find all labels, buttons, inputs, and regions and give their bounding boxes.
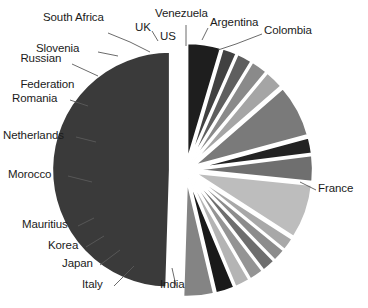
slice-label-argentina: Argentina xyxy=(210,16,258,29)
slice-label-korea: Korea xyxy=(48,239,78,252)
slice-label-slovenia: Slovenia xyxy=(36,42,79,55)
leader-line-south-africa xyxy=(108,33,150,52)
pie-chart-figure: South Africa UK US Venezuela Argentina C… xyxy=(0,0,368,308)
slice-label-japan: Japan xyxy=(62,257,93,270)
slice-label-venezuela: Venezuela xyxy=(155,7,208,20)
slice-label-colombia: Colombia xyxy=(264,24,312,37)
leader-line-argentina xyxy=(202,28,208,40)
leader-line-uk xyxy=(152,31,158,41)
slice-label-us: US xyxy=(160,30,176,43)
slice-label-mauritius: Mauritius xyxy=(22,218,68,231)
leader-line-slovenia xyxy=(98,52,118,56)
russian-federation-line-2: Federation xyxy=(20,78,74,90)
slice-label-romania: Romania xyxy=(12,92,57,105)
slice-label-france: France xyxy=(318,182,353,195)
slice-label-netherlands: Netherlands xyxy=(3,129,64,142)
slice-label-italy: Italy xyxy=(82,278,103,291)
slice-label-morocco: Morocco xyxy=(8,168,51,181)
slice-label-india: India xyxy=(160,278,184,291)
leader-line-colombia xyxy=(218,34,262,50)
slice-label-uk: UK xyxy=(135,21,151,34)
slice-label-south-africa: South Africa xyxy=(43,11,104,24)
